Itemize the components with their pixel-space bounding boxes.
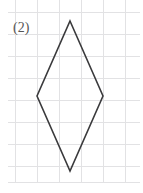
figure-label: (2) (13, 20, 29, 36)
rhombus-outline (37, 21, 103, 171)
figure-container: (2) (0, 0, 143, 193)
